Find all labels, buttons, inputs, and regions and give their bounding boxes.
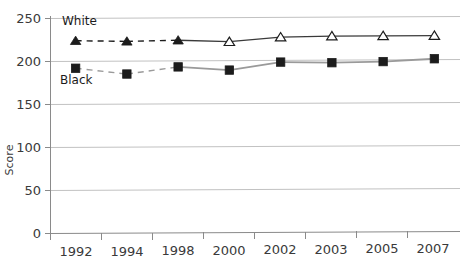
series-segment bbox=[178, 40, 229, 41]
series-layer bbox=[70, 31, 439, 78]
marker-square bbox=[174, 63, 182, 71]
series-black bbox=[71, 55, 438, 79]
y-tick-label-0: 0 bbox=[33, 226, 41, 241]
x-tick-label-2000: 2000 bbox=[212, 243, 245, 258]
gridline-250 bbox=[50, 17, 460, 19]
series-label-white: White bbox=[62, 14, 97, 28]
gridline-100 bbox=[50, 146, 460, 148]
series-segment bbox=[127, 67, 178, 74]
y-tick-label-250: 250 bbox=[16, 11, 41, 26]
series-white bbox=[70, 31, 439, 46]
x-tick-label-1998: 1998 bbox=[161, 243, 194, 258]
series-segment bbox=[281, 62, 332, 63]
marker-square bbox=[276, 58, 284, 66]
y-axis-ticks bbox=[45, 19, 50, 234]
chart-screenshot: 250 200 150 100 50 0 Score 1992 1994 199… bbox=[0, 0, 464, 266]
x-tick-label-1992: 1992 bbox=[59, 244, 92, 259]
y-tick-label-150: 150 bbox=[16, 97, 41, 112]
marker-square bbox=[328, 59, 336, 67]
y-axis-tick-labels: 250 200 150 100 50 0 bbox=[16, 11, 41, 241]
x-tick-label-2003: 2003 bbox=[314, 242, 347, 257]
series-segment bbox=[229, 37, 280, 42]
gridlines bbox=[50, 17, 460, 234]
line-chart: 250 200 150 100 50 0 Score 1992 1994 199… bbox=[0, 0, 464, 266]
y-tick-label-50: 50 bbox=[24, 183, 41, 198]
y-tick-label-100: 100 bbox=[16, 140, 41, 155]
marker-square bbox=[225, 66, 233, 74]
x-axis-tick-labels: 1992 1994 1998 2000 2002 2003 2005 2007 bbox=[59, 241, 449, 259]
marker-square bbox=[71, 64, 79, 72]
series-segment bbox=[127, 40, 178, 41]
gridline-50 bbox=[50, 189, 460, 191]
x-tick-label-1994: 1994 bbox=[110, 244, 143, 259]
marker-square bbox=[430, 55, 438, 63]
x-tick-label-2005: 2005 bbox=[365, 241, 398, 256]
series-segment bbox=[229, 62, 280, 70]
series-segment bbox=[332, 62, 383, 63]
gridline-150 bbox=[50, 103, 460, 105]
x-tick-label-2007: 2007 bbox=[416, 241, 449, 256]
series-segment bbox=[281, 36, 332, 37]
y-axis-title: Score bbox=[3, 144, 16, 175]
series-segment bbox=[76, 41, 127, 42]
x-tick-label-2002: 2002 bbox=[263, 242, 296, 257]
marker-square bbox=[379, 57, 387, 65]
marker-square bbox=[123, 70, 131, 78]
series-label-black: Black bbox=[60, 73, 93, 87]
y-tick-label-200: 200 bbox=[16, 54, 41, 69]
series-segment bbox=[178, 67, 229, 70]
